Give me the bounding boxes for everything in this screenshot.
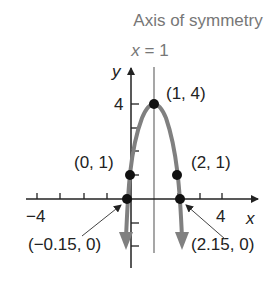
symmetry-equation-value: = 1 [140, 41, 169, 60]
x-axis-label: x [245, 209, 255, 228]
point-0-1 [125, 170, 135, 180]
x-tick-label-neg4: −4 [26, 207, 45, 226]
y-tick-label-4: 4 [114, 95, 123, 114]
leader-left-root [82, 205, 121, 236]
parabola-graph: Axis of symmetry x = 1 y x 4 −4 4 (1, 4)… [0, 0, 279, 292]
y-axis-label: y [111, 62, 122, 81]
label-vertex: (1, 4) [166, 84, 206, 103]
label-0-1: (0, 1) [74, 153, 114, 172]
x-tick-label-4: 4 [216, 207, 225, 226]
curve-right-arrow-icon [175, 232, 189, 250]
point-vertex [149, 99, 159, 109]
axis-of-symmetry-title: Axis of symmetry [133, 11, 263, 30]
point-right-root [175, 194, 185, 204]
label-2-1: (2, 1) [191, 153, 231, 172]
label-left-root: (−0.15, 0) [28, 235, 101, 254]
symmetry-equation: x = 1 [130, 41, 168, 60]
symmetry-equation-var: x [130, 41, 140, 60]
point-2-1 [172, 170, 182, 180]
point-left-root [122, 194, 132, 204]
label-right-root: (2.15, 0) [191, 235, 254, 254]
